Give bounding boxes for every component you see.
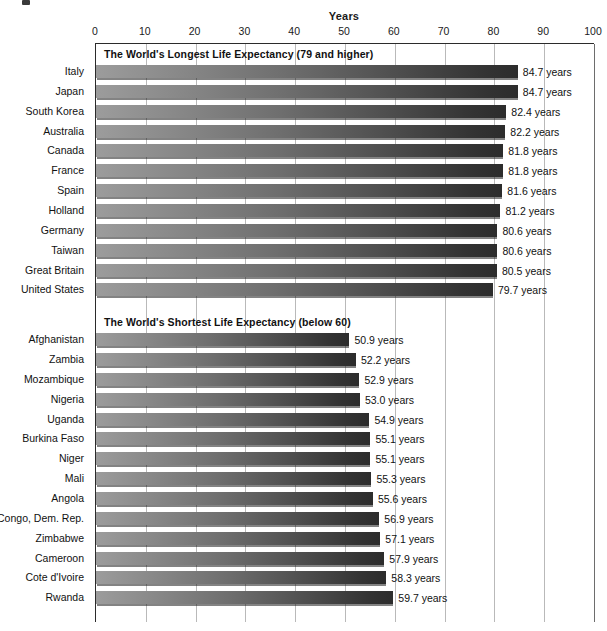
category-label: Holland xyxy=(0,204,84,216)
bar-baseline-shadow xyxy=(97,98,518,100)
bar-value-label: 81.2 years xyxy=(505,205,554,217)
bar xyxy=(96,532,380,545)
bar-value-label: 55.1 years xyxy=(375,453,424,465)
bar-baseline-shadow xyxy=(97,157,503,159)
bar-baseline-shadow xyxy=(97,346,349,348)
bar xyxy=(96,353,356,366)
bar-value-label: 80.6 years xyxy=(502,245,551,257)
bar xyxy=(96,512,379,525)
bar-baseline-shadow xyxy=(97,445,370,447)
bar-value-label: 82.2 years xyxy=(510,126,559,138)
category-label: Niger xyxy=(0,452,84,464)
bar-baseline-shadow xyxy=(97,78,518,80)
bar xyxy=(96,333,349,346)
plot-area: The World's Longest Life Expectancy (79 … xyxy=(95,43,594,622)
bar-value-label: 80.6 years xyxy=(502,225,551,237)
category-label: Great Britain xyxy=(0,264,84,276)
bar-baseline-shadow xyxy=(97,465,370,467)
bar xyxy=(96,244,497,257)
category-label: Afghanistan xyxy=(0,333,84,345)
bar-baseline-shadow xyxy=(97,386,359,388)
bar xyxy=(96,85,518,98)
bar-baseline-shadow xyxy=(97,277,497,279)
x-tick-label-10: 10 xyxy=(139,25,151,37)
bar-baseline-shadow xyxy=(97,257,497,259)
bar-value-label: 55.3 years xyxy=(376,473,425,485)
category-label: Mozambique xyxy=(0,373,84,385)
bar xyxy=(96,224,497,237)
bar-baseline-shadow xyxy=(97,217,500,219)
bar-value-label: 52.9 years xyxy=(364,374,413,386)
bar-value-label: 82.4 years xyxy=(511,106,560,118)
category-label: Zimbabwe xyxy=(0,532,84,544)
bar-baseline-shadow xyxy=(97,177,503,179)
x-tick-label-40: 40 xyxy=(288,25,300,37)
bar xyxy=(96,452,370,465)
bar-value-label: 81.8 years xyxy=(508,165,557,177)
x-axis-tick-labels: 0102030405060708090100 xyxy=(0,25,607,39)
bar xyxy=(96,393,360,406)
bar-value-label: 53.0 years xyxy=(365,394,414,406)
gridline-100 xyxy=(594,44,595,622)
bar-value-label: 81.8 years xyxy=(508,145,557,157)
bar xyxy=(96,432,370,445)
bar-baseline-shadow xyxy=(97,406,360,408)
category-label: Burkina Faso xyxy=(0,432,84,444)
bar xyxy=(96,164,503,177)
bar-baseline-shadow xyxy=(97,426,369,428)
bar xyxy=(96,204,500,217)
category-label-column: ItalyJapanSouth KoreaAustraliaCanadaFran… xyxy=(0,43,90,621)
bar-baseline-shadow xyxy=(97,584,386,586)
category-label: Canada xyxy=(0,144,84,156)
bar-value-label: 57.9 years xyxy=(389,553,438,565)
bar xyxy=(96,184,502,197)
bar xyxy=(96,144,503,157)
category-label: Nigeria xyxy=(0,393,84,405)
bar-value-label: 54.9 years xyxy=(374,414,423,426)
x-tick-label-50: 50 xyxy=(338,25,350,37)
bar-baseline-shadow xyxy=(97,237,497,239)
x-tick-label-100: 100 xyxy=(584,25,602,37)
bar-baseline-shadow xyxy=(97,505,373,507)
category-label: Spain xyxy=(0,184,84,196)
category-label: Japan xyxy=(0,85,84,97)
bar xyxy=(96,492,373,505)
x-tick-label-60: 60 xyxy=(388,25,400,37)
bar-value-label: 84.7 years xyxy=(523,86,572,98)
bar xyxy=(96,105,506,118)
x-tick-label-30: 30 xyxy=(239,25,251,37)
bar-baseline-shadow xyxy=(97,525,379,527)
bar xyxy=(96,283,493,296)
category-label: Mali xyxy=(0,472,84,484)
bar-value-label: 52.2 years xyxy=(361,354,410,366)
category-label: Taiwan xyxy=(0,244,84,256)
category-label: Cote d'Ivoire xyxy=(0,571,84,583)
bar-baseline-shadow xyxy=(97,485,371,487)
bar xyxy=(96,373,359,386)
x-tick-label-20: 20 xyxy=(189,25,201,37)
bar xyxy=(96,591,393,604)
bar xyxy=(96,413,369,426)
category-label: Uganda xyxy=(0,413,84,425)
bar-baseline-shadow xyxy=(97,197,502,199)
bar-baseline-shadow xyxy=(97,118,506,120)
category-label: Angola xyxy=(0,492,84,504)
category-label: Zambia xyxy=(0,353,84,365)
category-label: Congo, Dem. Rep. xyxy=(0,512,84,524)
bar-value-label: 57.1 years xyxy=(385,533,434,545)
bar-baseline-shadow xyxy=(97,138,505,140)
x-axis-title: Years xyxy=(95,10,593,22)
band-title-1: The World's Shortest Life Expectancy (be… xyxy=(104,316,351,328)
bar-value-label: 55.6 years xyxy=(378,493,427,505)
bar-value-label: 84.7 years xyxy=(523,66,572,78)
bar-value-label: 81.6 years xyxy=(507,185,556,197)
bar-baseline-shadow xyxy=(97,296,493,298)
bar-baseline-shadow xyxy=(97,565,384,567)
category-label: Australia xyxy=(0,125,84,137)
bar-value-label: 79.7 years xyxy=(498,284,547,296)
bar xyxy=(96,571,386,584)
bar-baseline-shadow xyxy=(97,366,356,368)
bar xyxy=(96,65,518,78)
category-label: Germany xyxy=(0,224,84,236)
bar xyxy=(96,125,505,138)
